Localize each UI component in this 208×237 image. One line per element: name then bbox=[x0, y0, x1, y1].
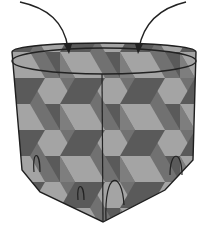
basket-illustration bbox=[0, 0, 208, 237]
basket-body bbox=[0, 0, 208, 237]
